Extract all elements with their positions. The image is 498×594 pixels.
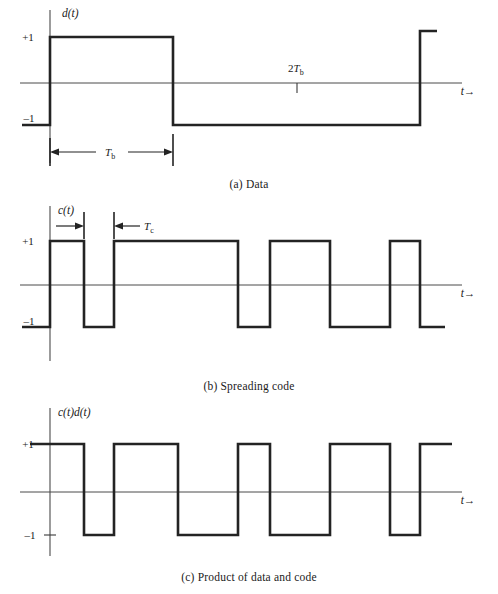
spread-spectrum-figure: d(t) +1 –1 t→ 2Tb Tb bbox=[0, 0, 498, 594]
panel-b-waveform bbox=[22, 241, 445, 327]
panel-b-x-axis-label: t→ bbox=[461, 287, 476, 299]
panel-a-ytick-minus1: –1 bbox=[23, 112, 35, 124]
panel-c-y-axis-label: c(t)d(t) bbox=[58, 406, 91, 419]
panel-c-ytick-minus1: –1 bbox=[24, 529, 36, 541]
panel-a-annotation-2tb: 2Tb bbox=[288, 62, 304, 77]
caption-panel-b: (b) Spreading code bbox=[0, 380, 498, 392]
panel-b-y-axis-label: c(t) bbox=[58, 204, 74, 217]
panel-a-dim-label-tb: Tb bbox=[105, 146, 115, 161]
panel-c-product: c(t)d(t) +1 –1 t→ bbox=[20, 406, 475, 556]
panel-b-ytick-minus1: –1 bbox=[23, 315, 35, 327]
panel-a-waveform bbox=[22, 31, 437, 125]
panel-c-waveform bbox=[30, 444, 452, 535]
panel-a-data: d(t) +1 –1 t→ 2Tb Tb bbox=[20, 7, 475, 166]
caption-panel-c: (c) Product of data and code bbox=[0, 571, 498, 583]
panel-c-ytick-plus1: +1 bbox=[22, 438, 34, 450]
panel-b-spreading-code: c(t) +1 –1 t→ Tc bbox=[20, 204, 475, 361]
panel-b-tc-arrow-head bbox=[114, 223, 123, 230]
panel-a-ytick-plus1: +1 bbox=[22, 31, 34, 43]
panel-a-y-axis-label: d(t) bbox=[62, 7, 79, 20]
panel-b-ytick-plus1: +1 bbox=[22, 235, 34, 247]
panel-a-dim-arrow-left bbox=[50, 149, 59, 156]
panel-a-x-axis-label: t→ bbox=[461, 85, 476, 97]
figure-svg: d(t) +1 –1 t→ 2Tb Tb bbox=[0, 0, 498, 594]
panel-c-x-axis-label: t→ bbox=[461, 494, 476, 506]
caption-panel-a: (a) Data bbox=[0, 178, 498, 190]
panel-b-dim-label-tc: Tc bbox=[144, 220, 154, 235]
panel-a-dim-arrow-right bbox=[164, 149, 173, 156]
panel-b-ct-arrow-head bbox=[75, 223, 84, 230]
